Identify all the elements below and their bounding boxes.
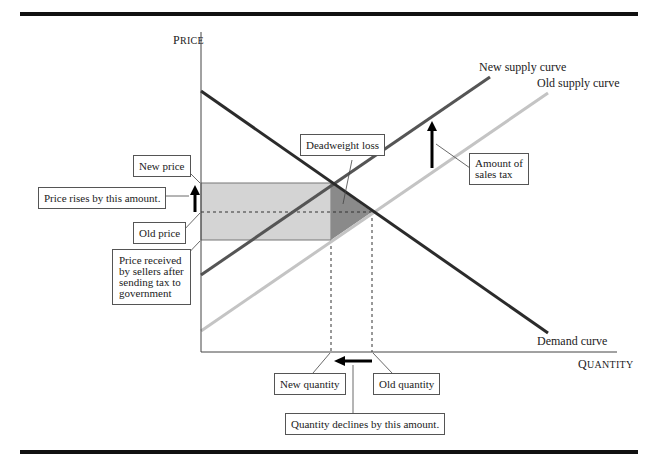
leader-old-quantity [373,353,392,373]
old-quantity-callout: Old quantity [373,373,440,395]
demand-label: Demand curve [537,334,607,349]
y-axis-label: PRICE [173,33,204,48]
sales-tax-callout: Amount of sales tax [469,153,529,185]
sales-tax-line-2: sales tax [475,169,523,180]
leader-tax [436,144,470,168]
new-price-callout: New price [133,155,191,177]
quantity-declines-callout: Quantity declines by this amount. [285,413,445,435]
price-rise-arrowhead-icon [190,185,200,195]
bottom-rule [20,450,638,454]
top-rule [20,12,638,16]
old-price-callout: Old price [133,222,186,244]
price-received-callout: Price received by sellers after sending … [112,249,191,305]
leader-new-quantity [313,353,330,373]
deadweight-loss-callout: Deadweight loss [300,134,385,156]
price-rises-callout: Price rises by this amount. [38,187,166,209]
price-received-line-4: government [119,288,184,299]
tax-arrowhead-icon [427,121,437,131]
new-supply-curve [201,77,490,275]
quantity-arrowhead-icon [334,356,345,366]
x-axis-label: QUANTITY [578,357,634,372]
old-supply-label: Old supply curve [537,76,620,91]
new-supply-label: New supply curve [479,60,566,75]
new-quantity-callout: New quantity [274,373,346,395]
